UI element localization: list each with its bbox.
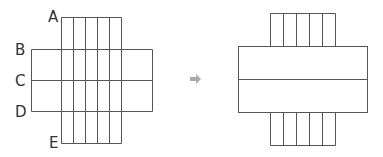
label-e: E — [49, 134, 58, 152]
label-d: D — [15, 103, 27, 121]
label-c: C — [15, 72, 25, 90]
left-diagram — [32, 18, 153, 144]
right-diagram — [239, 14, 368, 146]
label-a: A — [48, 8, 59, 26]
label-b: B — [15, 41, 25, 59]
diagram-canvas: A B C D E — [0, 0, 383, 157]
right-arrow-icon — [190, 74, 201, 84]
